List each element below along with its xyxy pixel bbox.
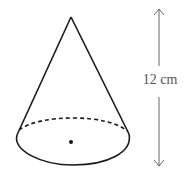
base-center-dot xyxy=(69,140,73,144)
height-label: 12 cm xyxy=(141,72,179,88)
cone xyxy=(17,17,130,165)
cone-left-edge xyxy=(17,17,71,135)
base-back-arc-dashed xyxy=(19,118,127,131)
base-front-arc xyxy=(17,134,130,165)
cone-right-edge xyxy=(71,17,129,134)
cone-diagram xyxy=(0,0,186,177)
